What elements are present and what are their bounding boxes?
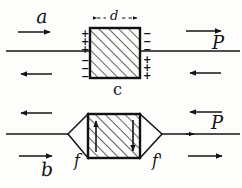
label-a: a [35, 7, 48, 27]
label-p-top: P [212, 34, 224, 52]
label-d: d [110, 9, 118, 22]
label-b: b [41, 160, 54, 180]
charge-left-3: + [81, 45, 89, 55]
physics-diagram: + + + − − − − − − + + + a d P c f f' b P [0, 0, 242, 188]
label-f-prime: f' [152, 153, 162, 169]
charge-right-6: + [143, 71, 151, 81]
charge-left-6: − [81, 72, 89, 82]
label-f: f [74, 153, 80, 169]
label-c: c [113, 82, 122, 98]
label-p-bottom: P [211, 114, 223, 132]
dielectric-slab-top [90, 28, 140, 78]
